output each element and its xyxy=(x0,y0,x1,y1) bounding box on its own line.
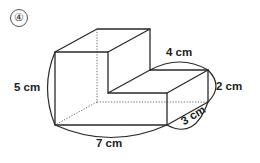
step-height-brace xyxy=(208,70,216,102)
step-width-brace xyxy=(150,62,208,70)
visible-edges xyxy=(55,29,208,125)
width-brace xyxy=(55,125,167,138)
step-height-label: 2 cm xyxy=(216,80,242,92)
height-label: 5 cm xyxy=(14,81,40,93)
step-width-label: 4 cm xyxy=(166,46,192,58)
hidden-edges xyxy=(55,29,208,125)
height-brace xyxy=(48,52,56,125)
width-label: 7 cm xyxy=(96,137,122,149)
